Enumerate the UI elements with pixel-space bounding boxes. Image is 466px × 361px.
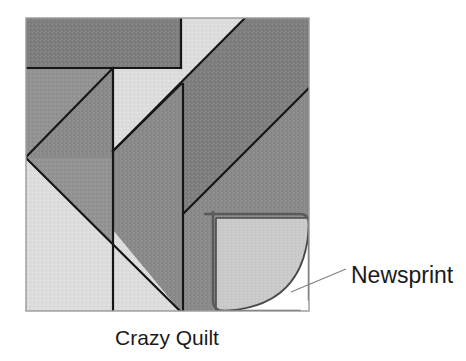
quilt-illustration: Newsprint Crazy Quilt <box>0 0 466 361</box>
quilt-figure: Newsprint Crazy Quilt <box>0 0 466 361</box>
newsprint-label: Newsprint <box>351 262 454 288</box>
quilt-caption: Crazy Quilt <box>115 326 219 349</box>
quilt-patches-group <box>26 18 309 311</box>
patch-top-band-dark <box>26 18 181 68</box>
